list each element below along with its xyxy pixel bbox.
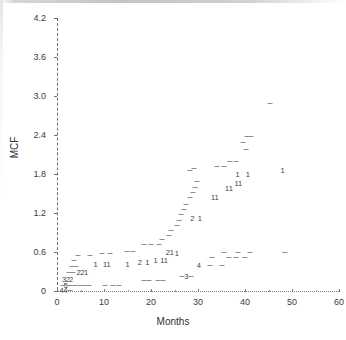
data-point-mark xyxy=(191,192,196,193)
data-point-mark xyxy=(177,220,182,221)
data-point-mark xyxy=(147,280,152,281)
scatter-plot: 00.61.21.82.43.03.64.2 0102030405060 445… xyxy=(0,0,346,340)
data-point-count: 11 xyxy=(160,256,168,263)
data-point-mark xyxy=(243,257,248,258)
data-point-mark xyxy=(68,290,73,291)
data-point-mark xyxy=(124,251,129,252)
y-tick-label: 1.8 xyxy=(18,170,46,179)
y-tick-mark xyxy=(54,18,57,19)
data-point-mark xyxy=(160,239,165,240)
data-point-mark xyxy=(221,252,226,253)
y-tick-label: 0 xyxy=(18,287,46,296)
data-point-count: 1 xyxy=(175,250,179,257)
data-point-mark xyxy=(208,265,213,266)
data-point-mark xyxy=(175,225,180,226)
data-point-mark xyxy=(188,170,193,171)
data-point-count: 1 xyxy=(93,260,97,267)
data-point-mark xyxy=(70,272,75,273)
x-tick-label: 30 xyxy=(183,298,213,307)
y-tick-label: 0.6 xyxy=(18,248,46,257)
data-point-count: 2 xyxy=(190,215,194,222)
y-tick-mark xyxy=(54,135,57,136)
y-tick-mark xyxy=(54,57,57,58)
y-tick-label: 4.2 xyxy=(18,14,46,23)
data-point-mark xyxy=(235,252,240,253)
data-point-mark xyxy=(86,285,91,286)
x-tick-label: 50 xyxy=(277,298,307,307)
data-point-mark xyxy=(214,166,219,167)
data-point-count: 21 xyxy=(166,249,174,256)
data-point-count: 2 xyxy=(138,259,142,266)
data-point-mark xyxy=(156,244,161,245)
data-point-mark xyxy=(248,136,253,137)
data-point-mark xyxy=(222,166,227,167)
y-axis-line xyxy=(57,18,58,290)
data-point-mark xyxy=(195,181,200,182)
x-tick-label: 0 xyxy=(42,298,72,307)
data-point-mark xyxy=(188,197,193,198)
y-tick-label: 3.0 xyxy=(18,92,46,101)
data-point-mark xyxy=(166,235,171,236)
data-point-mark xyxy=(149,244,154,245)
x-tick-minor xyxy=(222,290,223,292)
data-point-count: 1 xyxy=(235,171,239,178)
data-point-mark xyxy=(247,252,252,253)
data-point-count: 11 xyxy=(103,260,111,267)
y-tick-mark xyxy=(54,252,57,253)
y-tick-label: 2.4 xyxy=(18,131,46,140)
x-tick-minor xyxy=(175,290,176,292)
data-point-mark xyxy=(227,161,232,162)
x-tick-mark xyxy=(151,289,152,292)
data-point-mark xyxy=(181,209,186,210)
data-point-count: 1 xyxy=(246,171,250,178)
data-point-count: 1 xyxy=(145,259,149,266)
x-tick-minor xyxy=(316,290,317,292)
data-point-mark xyxy=(233,257,238,258)
data-point-mark xyxy=(192,168,197,169)
chart-figure: 00.61.21.82.43.03.64.2 0102030405060 445… xyxy=(0,0,346,340)
x-tick-mark xyxy=(57,289,58,292)
data-point-mark xyxy=(111,285,116,286)
data-point-mark xyxy=(117,285,122,286)
x-tick-mark xyxy=(245,289,246,292)
data-point-mark xyxy=(241,142,246,143)
data-point-mark xyxy=(74,266,79,267)
y-tick-mark xyxy=(54,96,57,97)
data-point-count: 1 xyxy=(125,260,129,267)
data-point-mark xyxy=(268,103,273,104)
data-point-count: 1 xyxy=(281,167,285,174)
x-tick-mark xyxy=(292,289,293,292)
data-point-mark xyxy=(71,260,76,261)
data-point-mark xyxy=(161,280,166,281)
x-tick-mark xyxy=(339,289,340,292)
data-point-mark xyxy=(282,252,287,253)
x-tick-label: 40 xyxy=(230,298,260,307)
data-point-count: 1 xyxy=(198,215,202,222)
x-tick-minor xyxy=(128,290,129,292)
data-point-mark xyxy=(168,230,173,231)
x-axis-title: Months xyxy=(0,316,346,327)
data-point-mark xyxy=(102,285,107,286)
y-axis-title: MCF xyxy=(9,128,20,168)
data-point-mark xyxy=(87,255,92,256)
y-tick-label: 3.6 xyxy=(18,53,46,62)
data-point-mark xyxy=(233,161,238,162)
data-point-mark xyxy=(179,276,184,277)
data-point-count: 4 xyxy=(197,262,201,269)
x-tick-minor xyxy=(81,290,82,292)
data-point-mark xyxy=(183,204,188,205)
data-point-mark xyxy=(131,251,136,252)
x-tick-minor xyxy=(269,290,270,292)
y-tick-label: 1.2 xyxy=(18,209,46,218)
x-tick-mark xyxy=(104,289,105,292)
x-tick-label: 60 xyxy=(324,298,346,307)
data-point-mark xyxy=(193,187,198,188)
data-point-count: 1 xyxy=(154,256,158,263)
y-tick-mark xyxy=(54,174,57,175)
data-point-count: 11 xyxy=(211,194,219,201)
data-point-count: 1 xyxy=(84,268,88,275)
data-point-mark xyxy=(220,265,225,266)
data-point-mark xyxy=(141,244,146,245)
data-point-count: 11 xyxy=(225,185,233,192)
y-tick-mark xyxy=(54,213,57,214)
